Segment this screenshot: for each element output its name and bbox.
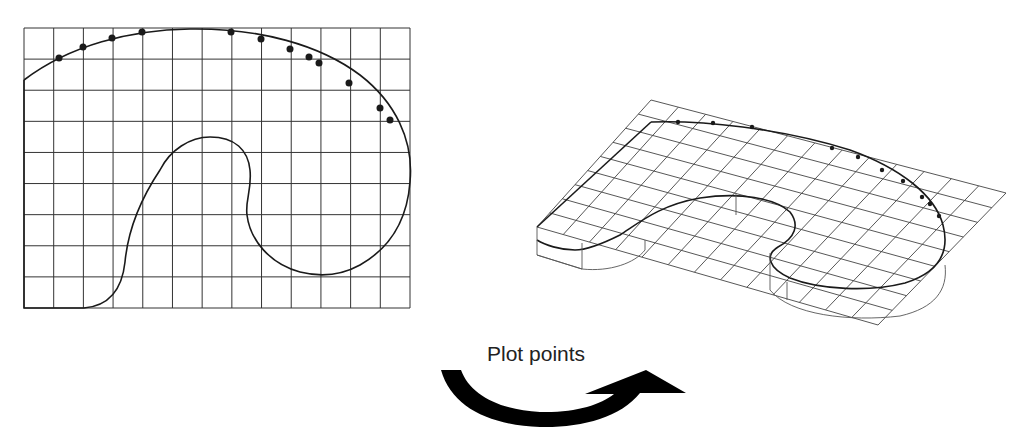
curved-arrow-right-icon [0, 0, 1021, 448]
diagram: Plot points [0, 0, 1021, 448]
plot-points-label: Plot points [487, 342, 585, 366]
